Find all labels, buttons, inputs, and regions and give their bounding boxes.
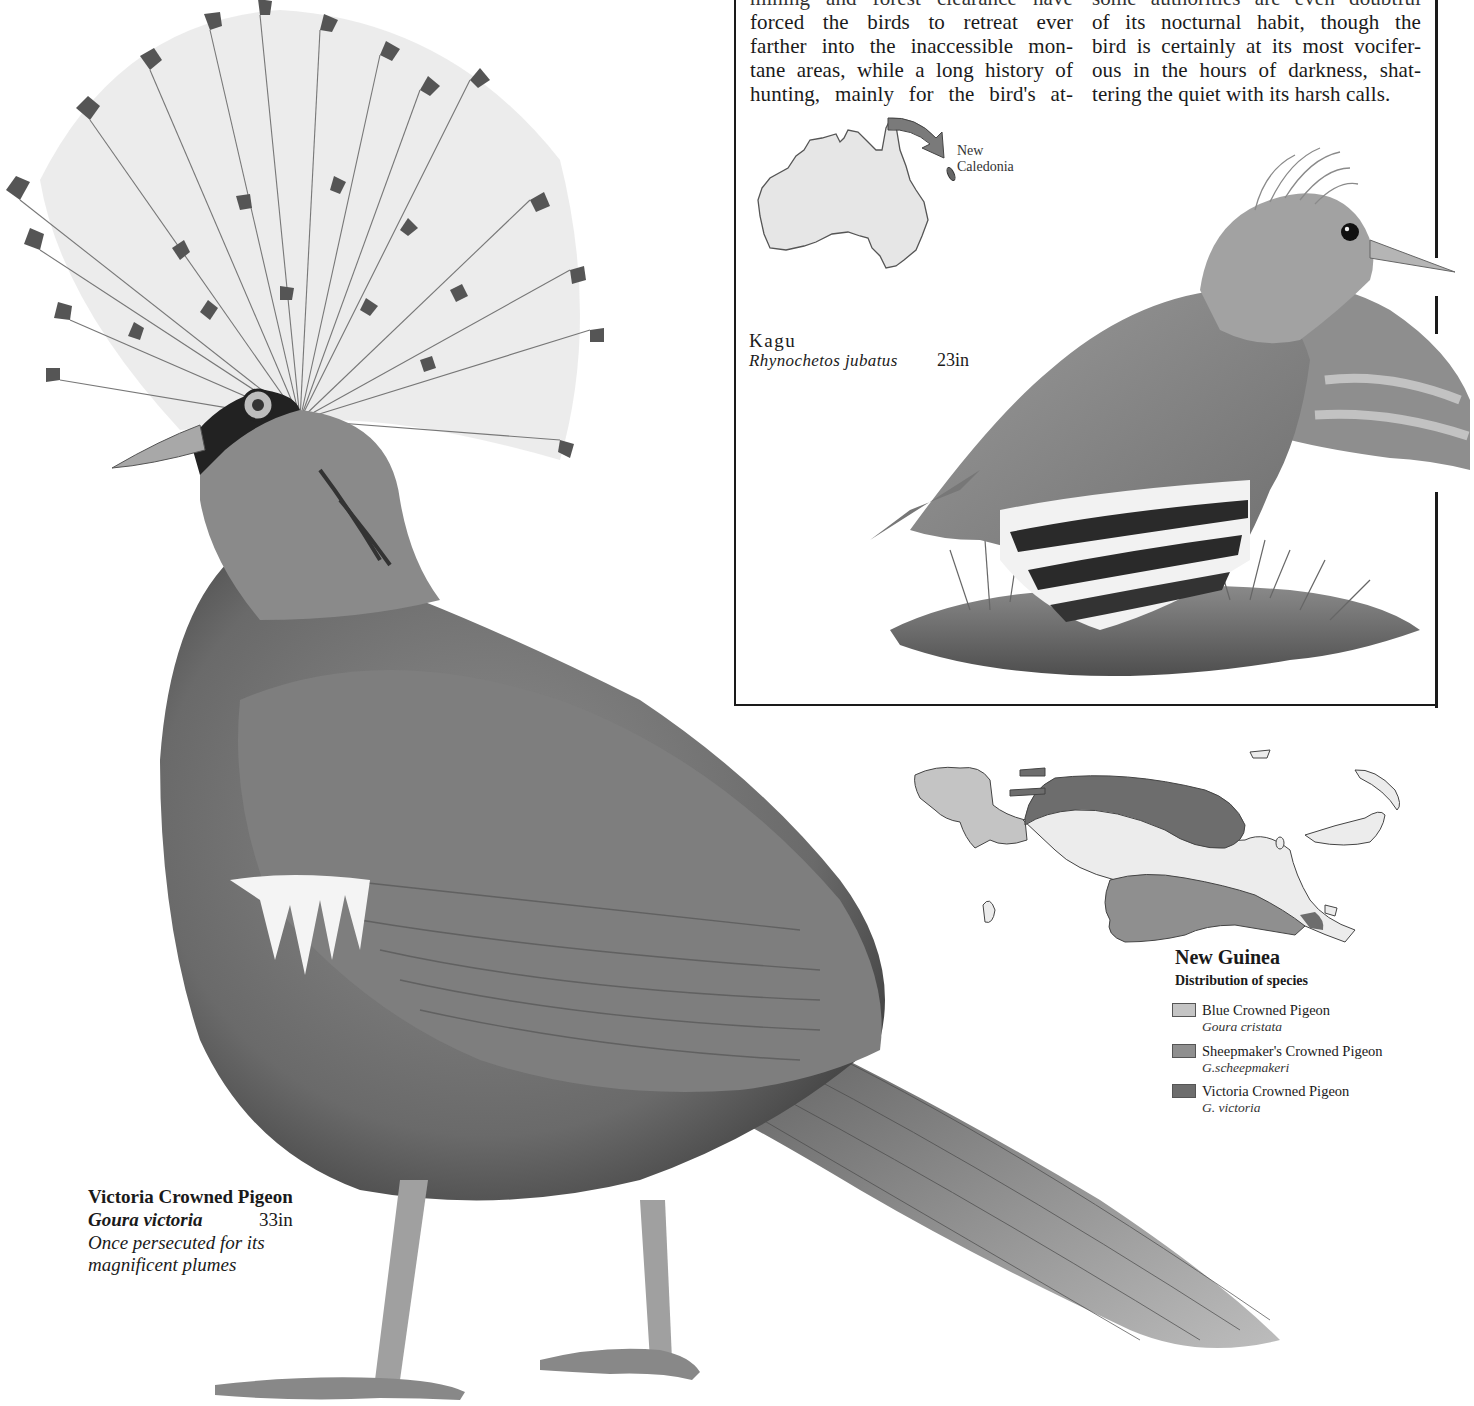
note-line: Once persecuted for its: [88, 1232, 265, 1254]
kagu-beak: [1370, 240, 1455, 272]
kagu-eye-highlight: [1345, 227, 1349, 231]
note-line: magnificent plumes: [88, 1254, 265, 1276]
pigeon-crest: [6, 0, 604, 460]
pigeon-note: Once persecuted for its magnificent plum…: [88, 1232, 265, 1276]
pigeon-size: 33in: [259, 1209, 293, 1231]
kagu-eye: [1341, 223, 1359, 241]
pigeon-beak: [112, 425, 205, 468]
pigeon-scientific-name: Goura victoria: [88, 1209, 203, 1231]
pigeon-pupil: [252, 399, 264, 411]
pigeon-common-name: Victoria Crowned Pigeon: [88, 1186, 293, 1208]
